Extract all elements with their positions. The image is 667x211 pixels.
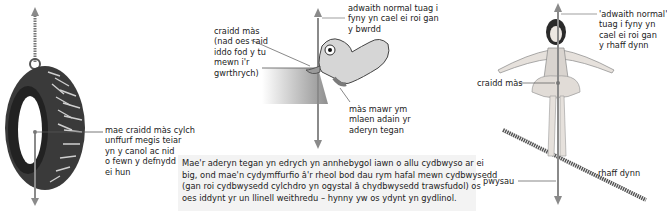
- arrow-down-icon: [31, 198, 39, 206]
- arrow-up-icon: [31, 7, 39, 16]
- arrow-down-icon: [554, 196, 562, 205]
- bird-center-of-mass-label: craidd màs (nad oes raid iddo fod y tu m…: [214, 26, 268, 78]
- tyre-illustration: [5, 7, 103, 206]
- caption-box: Mae'r aderyn tegan yn edrych yn annhebyg…: [178, 155, 476, 211]
- arrow-up-icon: [314, 8, 322, 17]
- arrow-down-icon: [314, 140, 322, 149]
- tightrope-rope-label: rhaff dynn: [598, 168, 640, 178]
- bird-normal-reaction-label: adwaith normal tuag i fyny yn cael ei ro…: [348, 3, 439, 34]
- tightrope-normal-reaction-label: 'adwaith normal' tuag i fyny yn cael ei …: [599, 9, 667, 51]
- arrow-up-icon: [554, 3, 562, 12]
- bird-wing-mass-label: màs mawr ym mlaen adain yr aderyn tegan: [349, 104, 411, 135]
- tightrope-center-of-mass-label: craidd màs: [477, 78, 522, 88]
